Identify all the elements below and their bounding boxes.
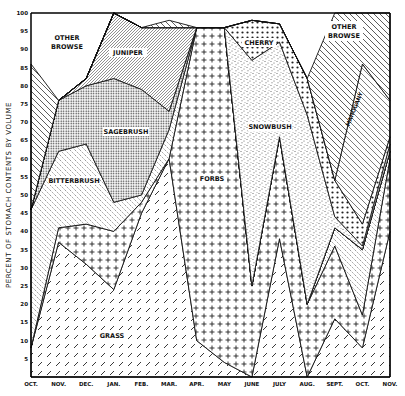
y-tick-label: 100 [17, 10, 29, 16]
label-snowbush: SNOWBUSH [248, 123, 291, 131]
y-tick-label: 95 [20, 28, 28, 34]
y-tick-label: 15 [20, 319, 28, 325]
label-forbs: FORBS [200, 175, 225, 183]
x-tick-label: JUNE [243, 381, 259, 388]
x-tick-label: AUG. [300, 381, 315, 387]
label-other-browse-right: OTHER [332, 23, 357, 31]
label-bitterbrush: BITTERBRUSH [48, 177, 99, 185]
y-tick-label: 65 [20, 137, 28, 143]
x-tick-label: FEB. [135, 381, 149, 387]
x-tick-label: NOV. [51, 381, 66, 387]
y-tick-labels: 5101520253035404550556065707580859095100 [17, 10, 29, 362]
x-tick-labels: OCT.NOV.DEC.JAN.FEB.MAR.APR.MAYJUNEJULYA… [24, 381, 397, 388]
y-tick-label: 85 [20, 65, 28, 71]
y-tick-label: 55 [20, 174, 28, 180]
y-tick-label: 5 [24, 356, 28, 362]
label-grass: GRASS [100, 332, 125, 340]
y-tick-label: 40 [20, 228, 28, 234]
x-tick-label: MAR. [161, 381, 177, 387]
y-tick-label: 35 [20, 247, 28, 253]
x-tick-label: NOV. [383, 381, 398, 387]
y-tick-label: 90 [20, 46, 28, 52]
label-other-browse-left: OTHER [55, 34, 80, 42]
y-tick-label: 30 [20, 265, 28, 271]
x-tick-label: APR. [189, 381, 204, 387]
x-tick-label: DEC. [79, 381, 93, 387]
y-tick-label: 10 [20, 338, 28, 344]
label-other-browse-left-2: BROWSE [51, 43, 83, 51]
x-tick-label: JULY [272, 381, 287, 388]
y-tick-label: 45 [20, 210, 28, 216]
label-cherry: CHERRY [244, 39, 273, 47]
area-layers [31, 13, 390, 377]
x-tick-label: MAY [218, 381, 232, 387]
y-tick-label: 20 [20, 301, 28, 307]
y-tick-label: 70 [20, 119, 28, 125]
x-tick-label: SEPT. [326, 381, 343, 387]
y-tick-label: 25 [20, 283, 28, 289]
label-juniper: JUNIPER [112, 49, 143, 57]
x-tick-label: OCT. [24, 381, 38, 387]
x-tick-label: JAN. [106, 381, 120, 388]
y-axis-label: PERCENT OF STOMACH CONTENTS BY VOLUME [5, 102, 13, 288]
label-other-browse-right-2: BROWSE [328, 32, 360, 40]
label-sagebrush: SAGEBRUSH [104, 128, 149, 136]
y-tick-label: 75 [20, 101, 28, 107]
stacked-area-chart: 5101520253035404550556065707580859095100… [0, 0, 405, 396]
y-tick-label: 50 [20, 192, 28, 198]
y-tick-label: 60 [20, 156, 28, 162]
x-tick-label: OCT. [356, 381, 370, 387]
y-tick-label: 80 [20, 83, 28, 89]
